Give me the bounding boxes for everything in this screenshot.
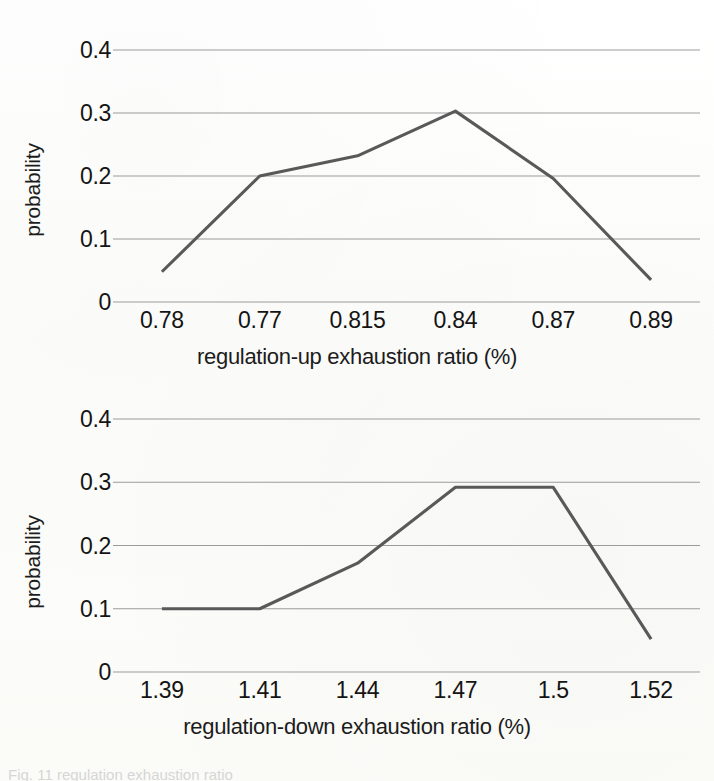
series-line-regulation-up xyxy=(113,50,700,302)
x-tick-label-top-4: 0.87 xyxy=(531,307,575,334)
y-axis-title-top: probability xyxy=(16,110,50,270)
y-tick-label-top-0: 0.4 xyxy=(80,37,111,64)
y-tick-label-top-4: 0 xyxy=(99,289,112,316)
x-tick-label-top-2: 0.815 xyxy=(330,307,386,334)
x-tick-label-bottom-3: 1.47 xyxy=(434,677,478,704)
x-tick-label-top-0: 0.78 xyxy=(140,307,184,334)
y-tick-label-top-1: 0.3 xyxy=(80,100,111,127)
x-tick-label-bottom-1: 1.41 xyxy=(238,677,282,704)
y-tick-label-bottom-2: 0.2 xyxy=(80,532,111,559)
x-tick-label-bottom-4: 1.5 xyxy=(538,677,569,704)
x-tick-label-bottom-5: 1.52 xyxy=(629,677,673,704)
y-tick-label-top-2: 0.2 xyxy=(80,163,111,190)
y-axis-title-label-bottom: probability xyxy=(21,515,45,609)
x-tick-label-top-1: 0.77 xyxy=(238,307,282,334)
y-tick-label-bottom-3: 0.1 xyxy=(80,595,111,622)
y-tick-label-bottom-0: 0.4 xyxy=(80,406,111,433)
x-axis-tick-labels-top: 0.780.770.8150.840.870.89 xyxy=(113,307,700,337)
x-tick-label-top-5: 0.89 xyxy=(629,307,673,334)
chart-regulation-down: probability 0.40.30.20.10 1.391.411.441.… xyxy=(0,390,714,781)
plot-area-top xyxy=(113,50,700,302)
x-tick-label-top-3: 0.84 xyxy=(434,307,478,334)
y-tick-label-bottom-4: 0 xyxy=(99,659,112,686)
x-axis-tick-labels-bottom: 1.391.411.441.471.51.52 xyxy=(113,677,700,707)
y-axis-title-bottom: probability xyxy=(16,482,50,642)
y-tick-label-top-3: 0.1 xyxy=(80,226,111,253)
x-axis-title-bottom: regulation-down exhaustion ratio (%) xyxy=(0,714,714,740)
y-axis-tick-labels-top: 0.40.30.20.10 xyxy=(55,0,111,390)
y-axis-title-label-top: probability xyxy=(21,143,45,237)
x-tick-label-bottom-0: 1.39 xyxy=(140,677,184,704)
plot-area-bottom xyxy=(113,419,700,672)
series-line-regulation-down xyxy=(113,419,700,672)
series-polyline-top xyxy=(162,111,651,280)
x-axis-title-top: regulation-up exhaustion ratio (%) xyxy=(0,344,714,370)
y-tick-label-bottom-1: 0.3 xyxy=(80,469,111,496)
chart-regulation-up: probability 0.40.30.20.10 0.780.770.8150… xyxy=(0,0,714,390)
x-tick-label-bottom-2: 1.44 xyxy=(336,677,380,704)
series-polyline-bottom xyxy=(162,487,651,639)
caption-fragment: Fig. 11 regulation exhaustion ratio xyxy=(8,768,338,781)
